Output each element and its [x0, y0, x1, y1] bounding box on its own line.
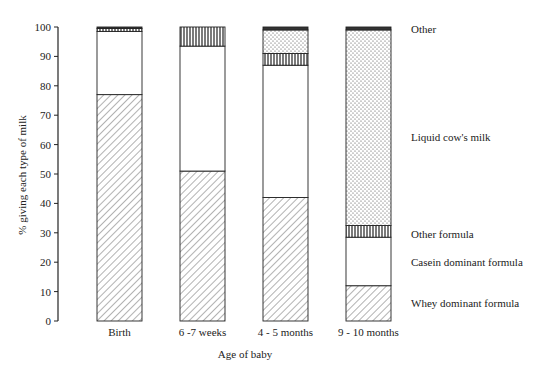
x-category-labels: Birth6 -7 weeks4 - 5 months9 - 10 months [108, 326, 399, 338]
y-tick-label: 100 [35, 21, 52, 33]
bar-segment-casein-dominant-formula [180, 46, 225, 171]
y-tick-label: 30 [40, 227, 52, 239]
y-tick-label: 70 [40, 109, 52, 121]
legend: OtherLiquid cow's milkOther formulaCasei… [411, 23, 523, 309]
y-tick-label: 90 [40, 50, 52, 62]
bars [97, 27, 391, 321]
bar-segment-casein-dominant-formula [263, 65, 308, 197]
bar-segment-other-formula [263, 53, 308, 65]
y-tick-label: 40 [40, 197, 52, 209]
bar-segment-other [97, 27, 142, 28]
legend-label: Whey dominant formula [411, 297, 519, 309]
bar-segment-other [346, 27, 391, 30]
x-category-label: 9 - 10 months [338, 326, 399, 338]
bar-segment-liquid-cow-s-milk [346, 30, 391, 226]
x-axis-title: Age of baby [218, 348, 273, 360]
y-tick-label: 80 [40, 80, 52, 92]
bar-segment-other [263, 27, 308, 30]
bar-segment-liquid-cow-s-milk [263, 30, 308, 54]
legend-label: Other formula [411, 228, 474, 240]
stacked-bar-chart: 0102030405060708090100 Birth6 -7 weeks4 … [0, 0, 540, 377]
bar-segment-casein-dominant-formula [97, 31, 142, 94]
bar-segment-whey-dominant-formula [346, 286, 391, 321]
y-tick-label: 50 [40, 168, 52, 180]
y-axis-title: % giving each type of milk [16, 115, 28, 235]
bar-stack [97, 27, 142, 321]
bar-segment-whey-dominant-formula [180, 171, 225, 321]
x-category-label: Birth [108, 326, 131, 338]
bar-segment-casein-dominant-formula [346, 237, 391, 286]
y-tick-label: 60 [40, 139, 52, 151]
bar-stack [346, 27, 391, 321]
y-tick-label: 20 [40, 256, 52, 268]
bar-segment-whey-dominant-formula [263, 198, 308, 321]
legend-label: Casein dominant formula [411, 256, 523, 268]
bar-segment-whey-dominant-formula [97, 95, 142, 321]
y-tick-label: 0 [46, 315, 52, 327]
bar-stack [263, 27, 308, 321]
bar-stack [180, 27, 225, 321]
x-category-label: 4 - 5 months [258, 326, 313, 338]
legend-label: Liquid cow's milk [411, 131, 491, 143]
x-category-label: 6 -7 weeks [179, 326, 227, 338]
y-tick-label: 10 [40, 286, 52, 298]
bar-segment-other-formula [346, 225, 391, 237]
bar-segment-other-formula [180, 27, 225, 46]
y-axis: 0102030405060708090100 [35, 21, 59, 327]
legend-label: Other [411, 23, 436, 35]
